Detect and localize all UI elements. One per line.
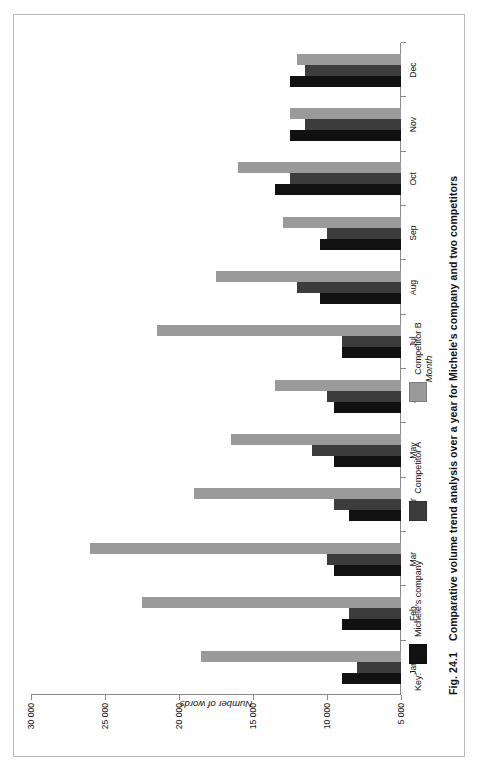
legend-swatch-0 [409,644,427,664]
legend-item-2: Competitor B [409,322,427,402]
bar-oct-series-1 [290,173,401,184]
category-tick-3 [401,477,406,478]
value-tick-label-0: 5 000 [396,703,406,725]
legend-label-1: Competitor A [413,442,423,494]
bar-group-apr [194,478,401,532]
value-tick-label-2: 15 000 [248,703,258,729]
category-tick-11 [401,42,406,43]
bar-aug-series-1 [297,282,401,293]
bar-dec-series-1 [305,65,401,76]
value-tick-1 [327,695,328,700]
bar-may-series-0 [334,456,401,467]
value-tick-3 [179,695,180,700]
bar-jan-series-1 [357,662,401,673]
bar-group-jul [157,315,401,369]
bar-jan-series-2 [201,651,401,662]
bar-jul-series-2 [157,325,401,336]
bar-nov-series-2 [290,108,401,119]
bar-dec-series-0 [290,76,401,87]
bar-dec-series-2 [297,54,401,65]
bar-mar-series-2 [90,543,401,554]
category-label-nov: Nov [408,117,418,132]
legend-swatch-1 [409,501,427,521]
value-axis-title: Number of words [180,699,252,710]
bar-sep-series-2 [283,217,401,228]
bar-mar-series-0 [334,565,401,576]
legend-swatch-2 [409,382,427,402]
figure-caption-text: Comparative volume trend analysis over a… [447,176,459,641]
bar-oct-series-0 [275,184,401,195]
category-label-oct: Oct [408,172,418,185]
bar-group-jun [275,369,401,423]
bar-apr-series-0 [349,510,401,521]
bar-mar-series-1 [327,554,401,565]
value-tick-label-5: 30 000 [26,703,36,729]
category-tick-0 [401,640,406,641]
bar-apr-series-2 [194,488,401,499]
figure: Number of words Month 5 00010 00015 0002… [13,14,465,757]
category-tick-6 [401,314,406,315]
bar-aug-series-2 [216,271,401,282]
value-tick-label-1: 10 000 [322,703,332,729]
printed-page: Number of words Month 5 00010 00015 0002… [0,0,486,771]
legend-item-1: Competitor A [409,442,427,521]
bar-jun-series-2 [275,380,401,391]
bar-group-oct [238,152,401,206]
legend-label-2: Competitor B [413,322,423,375]
category-tick-7 [401,259,406,260]
value-tick-2 [253,695,254,700]
figure-caption: Fig. 24.1 Comparative volume trend analy… [447,35,459,695]
bar-may-series-2 [231,434,401,445]
bar-jun-series-0 [334,402,401,413]
bar-apr-series-1 [334,499,401,510]
bar-nov-series-0 [290,130,401,141]
bar-aug-series-0 [320,293,401,304]
bar-may-series-1 [312,445,401,456]
bar-group-feb [142,586,401,640]
bar-group-aug [216,260,401,314]
value-tick-0 [401,695,402,700]
bar-feb-series-0 [342,619,401,630]
bar-group-sep [283,206,401,260]
bar-nov-series-1 [305,119,401,130]
category-label-dec: Dec [408,63,418,78]
bar-sep-series-1 [327,228,401,239]
figure-number: Fig. 24.1 [447,652,459,695]
bar-jan-series-0 [342,673,401,684]
rotated-figure-container: Number of words Month 5 00010 00015 0002… [13,14,465,757]
bar-group-may [231,423,401,477]
bar-group-jan [201,641,401,695]
legend: Key: Michele's companyCompetitor ACompet… [407,282,429,691]
legend-item-0: Michele's company [409,561,427,664]
category-tick-4 [401,422,406,423]
value-tick-label-3: 20 000 [174,703,184,729]
bar-jul-series-0 [342,347,401,358]
bar-group-mar [90,532,401,586]
bar-feb-series-1 [349,608,401,619]
bar-group-nov [290,97,401,151]
category-label-sep: Sep [408,226,418,241]
bar-group-dec [290,43,401,97]
bar-jul-series-1 [342,336,401,347]
bar-chart-plot: Number of words Month 5 00010 00015 0002… [31,43,401,695]
category-tick-1 [401,585,406,586]
bar-oct-series-2 [238,162,401,173]
bar-feb-series-2 [142,597,401,608]
value-tick-4 [105,695,106,700]
category-tick-5 [401,368,406,369]
bar-jun-series-1 [327,391,401,402]
value-tick-5 [31,695,32,700]
bar-sep-series-0 [320,239,401,250]
legend-label-0: Michele's company [413,561,423,637]
category-tick-8 [401,205,406,206]
category-tick-10 [401,96,406,97]
category-tick-9 [401,151,406,152]
legend-key-label: Key: [413,673,423,691]
value-tick-label-4: 25 000 [100,703,110,729]
category-tick-2 [401,531,406,532]
